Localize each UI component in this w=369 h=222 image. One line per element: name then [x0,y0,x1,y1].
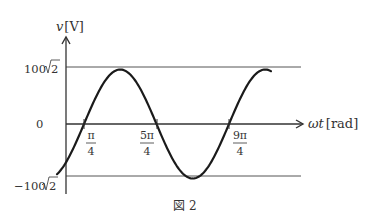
y-tick-max: 100 2 [24,60,60,76]
svg-text:2: 2 [49,179,56,193]
svg-text:4: 4 [144,145,151,158]
x-tick-label-pi-4: π 4 [86,129,96,158]
svg-text:9π: 9π [233,129,247,142]
figure-caption: 図 2 [173,199,196,213]
y-axis-label: v[V] [56,19,84,34]
x-tick-label-5pi-4: 5π 4 [140,129,154,158]
x-tick-label-9pi-4: 9π 4 [233,129,247,158]
svg-text:5π: 5π [140,129,154,142]
waveform-diagram: v[V] ωt[rad] 100 2 0 −100 2 π 4 5π 4 9π … [0,0,369,222]
svg-text:4: 4 [237,145,244,158]
svg-text:2: 2 [51,62,58,76]
svg-text:−100: −100 [14,179,46,193]
svg-text:4: 4 [88,145,95,158]
y-tick-zero: 0 [36,117,43,131]
y-tick-min: −100 2 [14,177,58,193]
svg-text:π: π [87,129,94,142]
x-axis-label: ωt[rad] [308,116,358,131]
svg-text:100: 100 [24,62,46,76]
